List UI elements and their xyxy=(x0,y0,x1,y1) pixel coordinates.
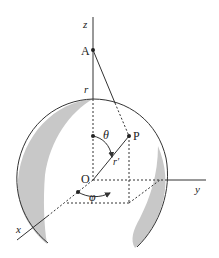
phi-start-dot xyxy=(76,190,80,194)
point-P-dot xyxy=(127,134,131,138)
label-z: z xyxy=(82,18,88,30)
label-y: y xyxy=(194,183,200,195)
label-x: x xyxy=(15,223,21,235)
r-prime-segment xyxy=(93,136,129,180)
point-A-dot xyxy=(91,48,95,52)
line-A-to-sphere xyxy=(93,50,115,103)
theta-start-dot xyxy=(91,134,95,138)
line-sphere-to-P xyxy=(115,103,129,136)
label-O: O xyxy=(81,172,90,186)
label-P: P xyxy=(133,129,140,143)
label-phi: φ xyxy=(89,190,96,204)
label-theta: θ xyxy=(103,128,109,142)
label-r-prime: r′ xyxy=(113,156,120,167)
label-A: A xyxy=(81,44,90,58)
label-r: r xyxy=(84,83,89,95)
diagram-canvas: z A r θ P r′ O φ y x xyxy=(0,0,219,258)
